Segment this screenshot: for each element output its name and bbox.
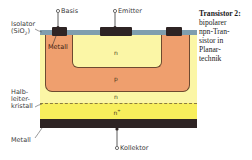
caption-line: bipolarer	[199, 18, 252, 27]
base-label: Basis	[61, 8, 78, 15]
emitter-terminal[interactable]	[113, 9, 116, 29]
emitter-n-label: n	[114, 49, 118, 56]
substrate-nplus-label: n+	[113, 108, 120, 116]
insulator-label-line2: (SiO2)	[11, 28, 30, 37]
metal-top-label: Metall	[48, 44, 68, 51]
metal-bottom-label: Metall	[11, 137, 31, 144]
figure-caption: Transistor 2: bipolarer npn-Tran- sistor…	[199, 9, 252, 63]
base-terminal[interactable]	[56, 9, 59, 29]
crystal-leader	[35, 104, 42, 107]
collector-terminal[interactable]	[115, 127, 118, 149]
insulator-close: )	[27, 27, 30, 35]
caption-line: technik	[199, 54, 252, 63]
insulator-formula: (SiO	[11, 27, 25, 35]
nplus-sup: +	[117, 108, 120, 113]
caption-title: Transistor 2:	[199, 9, 252, 18]
collector-n-label: n	[114, 93, 118, 100]
emitter-label: Emitter	[118, 8, 142, 15]
metal-bottom-leader	[35, 128, 42, 138]
insulator-leader	[35, 29, 42, 32]
caption-line: Planar-	[199, 45, 252, 54]
crystal-label-line3: kristall	[11, 103, 33, 110]
caption-line: sistor in	[199, 36, 252, 45]
caption-line: npn-Tran-	[199, 27, 252, 36]
base-p-label: p	[114, 75, 118, 82]
collector-label: Kollektor	[120, 145, 149, 152]
